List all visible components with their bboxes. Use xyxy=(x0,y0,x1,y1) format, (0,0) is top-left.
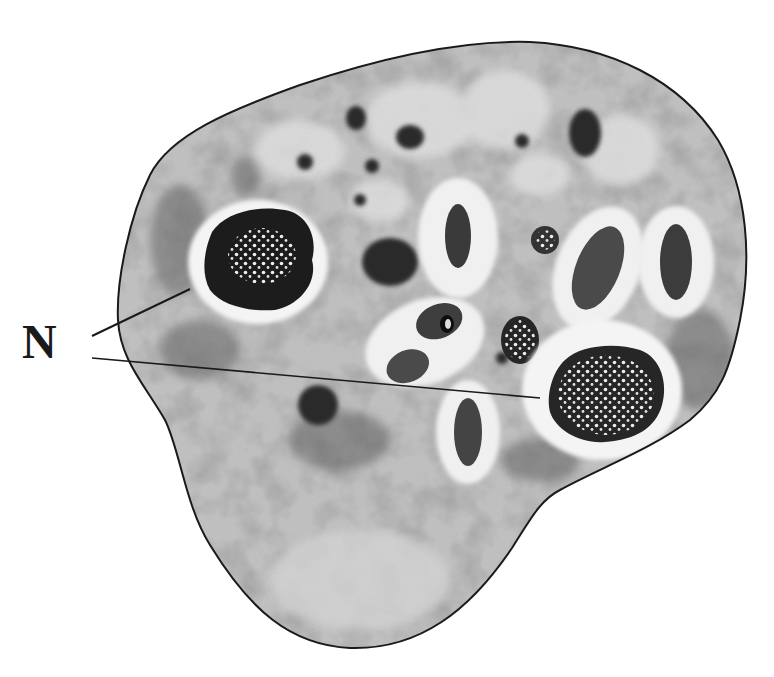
vacuole xyxy=(436,380,500,484)
small-dotted-inclusion xyxy=(531,226,559,254)
nucleus-right xyxy=(522,320,682,460)
vacuole xyxy=(418,178,498,298)
nucleus-left xyxy=(188,200,328,324)
vacuole xyxy=(638,206,714,318)
nucleus-label: N xyxy=(22,318,57,366)
cell-illustration xyxy=(0,0,774,677)
